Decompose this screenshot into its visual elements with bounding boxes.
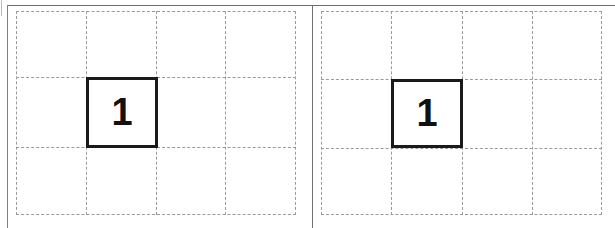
right-grid-vline-0 xyxy=(321,11,322,215)
right-grid-panel: 1 xyxy=(313,0,615,228)
left-grid-panel: 1 xyxy=(0,0,312,228)
right-grid-vline-4 xyxy=(601,11,602,215)
marked-cell-label: 1 xyxy=(416,94,437,132)
left-grid-vline-3 xyxy=(225,11,226,215)
right-grid-vline-3 xyxy=(532,11,533,215)
left-grid-vline-0 xyxy=(16,11,17,215)
diagram-canvas: 1 1 xyxy=(0,0,615,228)
left-grid-vline-4 xyxy=(295,11,296,215)
marked-cell: 1 xyxy=(86,77,158,148)
marked-cell: 1 xyxy=(391,79,463,148)
marked-cell-label: 1 xyxy=(111,93,132,131)
